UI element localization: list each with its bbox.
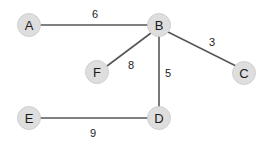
- node-c[interactable]: C: [233, 62, 256, 85]
- node-label-b: B: [155, 18, 164, 33]
- node-label-f: F: [93, 65, 101, 80]
- graph-diagram-canvas: ABCDEF 63859: [0, 0, 274, 147]
- edge-b-c[interactable]: [168, 32, 236, 66]
- node-e[interactable]: E: [18, 107, 41, 130]
- node-a[interactable]: A: [18, 14, 41, 37]
- edge-weight-b-d: 5: [165, 67, 171, 79]
- node-d[interactable]: D: [148, 107, 171, 130]
- edge-weight-b-c: 3: [209, 36, 215, 48]
- graph-svg: ABCDEF 63859: [0, 0, 274, 147]
- edge-weight-b-f: 8: [128, 59, 134, 71]
- node-label-c: C: [239, 66, 248, 81]
- node-label-e: E: [25, 111, 34, 126]
- node-label-a: A: [25, 18, 34, 33]
- edge-weight-e-d: 9: [90, 127, 96, 139]
- node-label-d: D: [154, 111, 163, 126]
- nodes-layer: ABCDEF: [18, 14, 256, 130]
- node-f[interactable]: F: [86, 61, 109, 84]
- node-b[interactable]: B: [148, 14, 171, 37]
- edge-weight-a-b: 6: [92, 8, 98, 20]
- edges-layer: [41, 25, 237, 118]
